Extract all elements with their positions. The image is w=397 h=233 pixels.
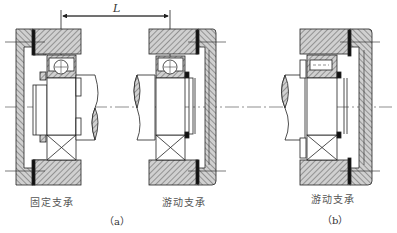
subfigure-label-b: （b） (322, 212, 348, 227)
subfigure-label-a: （a） (104, 213, 130, 228)
caption-floating-support-b: 游动支承 (311, 191, 355, 206)
caption-floating-support-a: 游动支承 (162, 194, 206, 209)
fixed-support-assembly (5, 29, 98, 185)
floating-support-assembly-b (282, 29, 381, 185)
dimension-label-L: L (113, 2, 120, 15)
floating-support-assembly-a (134, 29, 226, 185)
caption-fixed-support: 固定支承 (30, 194, 74, 209)
